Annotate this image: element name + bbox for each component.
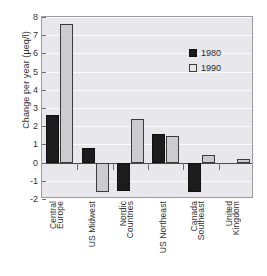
y-axis-title: Change per year (µeq/l): [19, 5, 33, 155]
bar-1990-us-midwest: [96, 163, 109, 192]
x-axis-label-central-europe: CentralEurope: [50, 201, 66, 273]
gridline: [42, 17, 252, 18]
x-axis-label-united-kingdom: UnitedKingdom: [226, 201, 242, 273]
bar-1980-canada-southeast: [188, 163, 201, 192]
y-axis-tick-label: -1: [30, 176, 38, 186]
gridline: [42, 199, 252, 200]
y-axis-tick-mark: [42, 17, 46, 18]
y-axis-tick-mark: [42, 108, 46, 109]
legend-item-1980: 1980: [189, 48, 221, 58]
y-axis-tick-label: 2: [33, 121, 38, 131]
y-axis-tick-label: 1: [33, 139, 38, 149]
x-axis-label-nordic-countries: NordicCountries: [120, 201, 136, 273]
gridline: [42, 181, 252, 182]
y-axis-tick-mark: [42, 181, 46, 182]
zero-line: [42, 163, 252, 164]
legend-swatch-1980: [189, 49, 197, 57]
gridline: [42, 144, 252, 145]
y-axis-tick-label: 7: [33, 30, 38, 40]
category-tick-mark: [77, 163, 78, 170]
bar-1990-canada-southeast: [202, 155, 215, 163]
legend-label: 1990: [201, 63, 221, 73]
x-axis-label-line: Kingdom: [233, 201, 240, 235]
y-axis-tick-label: 6: [33, 48, 38, 58]
chart-figure: Change per year (µeq/l) 876543210-1-2 19…: [0, 0, 267, 276]
x-axis-label-line: Southeast: [198, 201, 205, 240]
plot-area: 876543210-1-2: [41, 16, 253, 198]
bar-1990-us-northeast: [166, 136, 179, 162]
y-axis-tick-label: 0: [33, 158, 38, 168]
y-axis-tick-mark: [42, 53, 46, 54]
x-axis-label-line: Countries: [127, 201, 134, 238]
bar-1980-central-europe: [46, 115, 59, 162]
bar-1990-united-kingdom: [237, 159, 250, 163]
bar-1980-us-northeast: [152, 134, 165, 163]
y-axis-tick-label: 5: [33, 67, 38, 77]
category-tick-mark: [113, 163, 114, 170]
x-axis-label-line: US Midwest: [89, 201, 96, 247]
x-axis-label-line: US Northeast: [160, 201, 167, 253]
gridline: [42, 126, 252, 127]
x-axis-label-us-midwest: US Midwest: [89, 201, 97, 273]
legend-item-1990: 1990: [189, 63, 221, 73]
bar-1990-nordic-countries: [131, 119, 144, 163]
gridline: [42, 108, 252, 109]
category-tick-mark: [219, 163, 220, 170]
y-axis-tick-label: 8: [33, 12, 38, 22]
category-tick-mark: [148, 163, 149, 170]
category-tick-mark: [183, 163, 184, 170]
x-axis-label-line: Europe: [57, 201, 64, 229]
y-axis-tick-mark: [42, 199, 46, 200]
legend-swatch-1990: [189, 64, 197, 72]
y-axis-tick-mark: [42, 90, 46, 91]
gridline: [42, 35, 252, 36]
y-axis-tick-label: 3: [33, 103, 38, 113]
bar-1990-central-europe: [60, 24, 73, 162]
x-axis-label-us-northeast: US Northeast: [160, 201, 168, 273]
y-axis-tick-label: -2: [30, 194, 38, 204]
y-axis-tick-label: 4: [33, 85, 38, 95]
y-axis-tick-mark: [42, 35, 46, 36]
legend-label: 1980: [201, 48, 221, 58]
y-axis-tick-mark: [42, 163, 46, 164]
gridline: [42, 90, 252, 91]
y-axis-tick-mark: [42, 72, 46, 73]
chart-legend: 19801990: [189, 48, 221, 73]
bar-1980-us-midwest: [82, 148, 95, 163]
x-axis-label-canada-southeast: CanadaSoutheast: [191, 201, 207, 273]
bar-1980-nordic-countries: [117, 163, 130, 191]
